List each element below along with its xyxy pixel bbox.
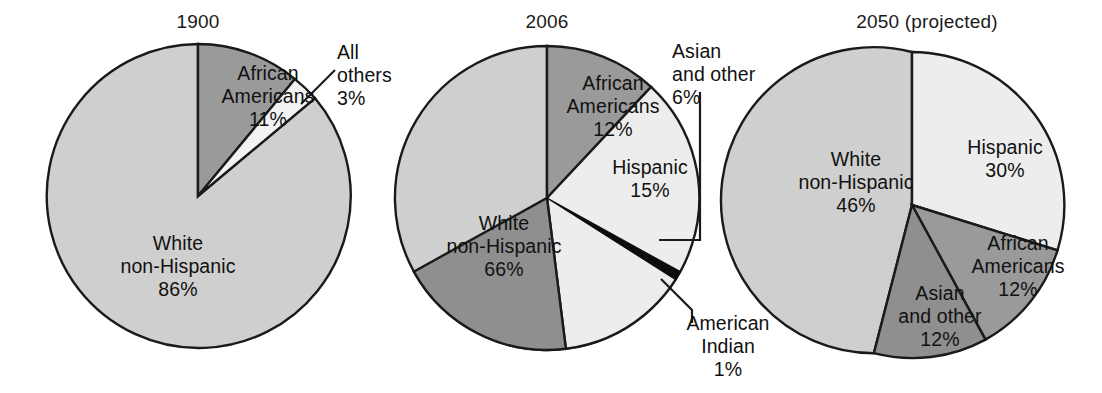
- slice-label-name: Asianand other: [860, 282, 1020, 328]
- slice-label-2050-asian-and-other: Asianand other 12%: [860, 282, 1020, 351]
- slice-label-name: AmericanIndian: [663, 312, 793, 358]
- slice-label-value: 46%: [756, 194, 956, 217]
- slice-label-2006-american-indian: AmericanIndian 1%: [663, 312, 793, 381]
- slice-label-value: 6%: [672, 86, 792, 109]
- slice-label-2050-white-non-hispanic: Whitenon-Hispanic 46%: [756, 148, 956, 217]
- slice-label-value: 12%: [528, 118, 698, 141]
- slice-label-name: Allothers: [337, 41, 457, 87]
- slice-label-2006-hispanic: Hispanic 15%: [570, 156, 730, 202]
- slice-label-1900-all-others: Allothers 3%: [337, 41, 457, 110]
- slice-label-1900-african-americans: AfricanAmericans 11%: [188, 62, 348, 131]
- chart-title-2050: 2050 (projected): [827, 11, 1027, 33]
- chart-title-2006: 2006: [467, 11, 627, 33]
- chart-title-1900: 1900: [118, 11, 278, 33]
- slice-label-value: 15%: [570, 179, 730, 202]
- pie-chart-figure: 1900 AfricanAmericans 11% Whitenon-Hispa…: [0, 0, 1102, 393]
- slice-label-name: Asianand other: [672, 40, 792, 86]
- slice-label-name: Whitenon-Hispanic: [78, 232, 278, 278]
- slice-label-name: Whitenon-Hispanic: [404, 212, 604, 258]
- slice-label-1900-white-non-hispanic: Whitenon-Hispanic 86%: [78, 232, 278, 301]
- slice-label-value: 86%: [78, 278, 278, 301]
- slice-label-name: AfricanAmericans: [188, 62, 348, 108]
- slice-label-value: 1%: [663, 358, 793, 381]
- slice-label-value: 66%: [404, 258, 604, 281]
- slice-label-2006-asian-and-other: Asianand other 6%: [672, 40, 792, 109]
- slice-label-value: 11%: [188, 108, 348, 131]
- slice-label-2006-white-non-hispanic: Whitenon-Hispanic 66%: [404, 212, 604, 281]
- slice-label-name: Whitenon-Hispanic: [756, 148, 956, 194]
- slice-label-name: Hispanic: [570, 156, 730, 179]
- slice-label-name: AfricanAmericans: [938, 232, 1098, 278]
- slice-label-value: 3%: [337, 87, 457, 110]
- slice-label-value: 12%: [860, 328, 1020, 351]
